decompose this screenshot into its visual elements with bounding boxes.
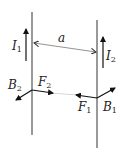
force-line: [50, 93, 78, 95]
force-arrow-F1: [76, 95, 97, 98]
label-B2: B2: [7, 78, 22, 93]
label-I2: I2: [105, 49, 116, 64]
label-I1: I1: [11, 39, 22, 54]
force-arrow-F2: [32, 90, 53, 93]
parallel-currents-diagram: I1 I2 a B2 F2 F1 B1: [0, 0, 128, 153]
label-B1: B1: [102, 100, 117, 115]
field-arrow-B1: [97, 88, 115, 98]
label-F1: F1: [77, 100, 91, 115]
label-F2: F2: [37, 75, 51, 90]
label-a: a: [58, 31, 65, 45]
